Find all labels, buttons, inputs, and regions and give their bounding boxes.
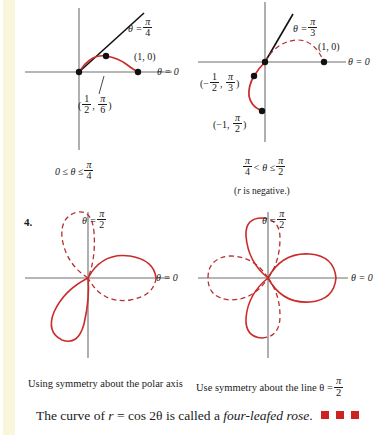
end-marker-square [351,411,359,419]
caption-bottom-right-text: Use symmetry about the line θ = [196,382,333,393]
curve-arc-pi-over-4-to-pi-over-2 [249,62,265,110]
panel-bottom-right: θ =π2 θ = 0 Use symmetry about the line … [196,206,374,391]
label-theta-zero: θ = 0 [156,273,178,283]
point-one-zero [135,69,141,75]
label-point-neg-half-pi-over-3: (−12, π3) [200,72,239,93]
fraction-pi-over-4: π4 [143,17,152,38]
fraction-numerator: 1 [82,94,91,104]
page-margin-strip [3,0,15,435]
fraction-denominator: 2 [82,104,91,115]
petal-right-lower-dashed [88,278,156,301]
caption-r-is-negative: (r is negative.) [234,186,290,196]
fraction-denominator: 6 [98,104,107,115]
caption-bottom-right: Use symmetry about the line θ =π2 [196,376,344,398]
fraction-denominator: 2 [97,219,106,230]
conclusion-emphasis: four-leafed rose [223,408,309,423]
end-marker-square [321,411,329,419]
fraction-denominator: 4 [84,170,93,181]
ray-theta-pi-over-3 [265,14,293,62]
fraction-denominator: 3 [308,27,317,38]
caption-range-mid: < θ ≤ [253,162,275,173]
label-theta-text: θ = [82,215,96,226]
end-marker-square [336,411,344,419]
fraction-numerator: π [277,209,286,219]
conclusion-part1: The curve of [36,408,105,423]
fraction-denominator: 4 [243,166,252,177]
caption-range-text: 0 ≤ θ ≤ [55,166,83,177]
fraction-pi-over-2: π2 [334,376,343,398]
label-theta-pi-over-2: θ =π2 [262,209,287,230]
top-left-plot [20,0,187,175]
label-theta-zero-text: θ = 0 [157,66,179,77]
conclusion-period: . [309,408,312,423]
figure-page: θ =π4 (1, 0) θ = 0 (12, π6) 0 ≤ θ ≤π4 [0,0,374,435]
label-point-one-zero: (1, 0) [134,52,156,62]
fraction-numerator: π [226,72,235,82]
label-point-neg-one-pi-over-2: (−1, π2) [213,113,246,134]
fraction-pi-over-2: π2 [276,156,285,177]
label-ray-theta-pi-over-4: θ =π4 [128,17,153,38]
label-theta-zero-text: θ = 0 [156,272,178,283]
leader-line-half-pi-six [99,76,104,94]
fraction-denominator: 4 [143,27,152,38]
curve-arc-dashed-prior [265,40,324,62]
fraction-pi-over-3: π3 [226,72,235,93]
fraction-pi-over-3: π3 [308,17,317,38]
label-theta-zero: θ = 0 [157,67,179,77]
fraction-denominator: 3 [226,82,235,93]
fraction-pi-over-4: π4 [84,160,93,181]
label-theta-pi-over-2: θ =π2 [82,209,107,230]
panel-top-left: θ =π4 (1, 0) θ = 0 (12, π6) 0 ≤ θ ≤π4 [20,0,187,205]
point-origin [76,69,82,75]
point-neg-half-pi-over-3 [251,73,257,79]
petal-lower-left-solid [51,278,88,341]
fraction-numerator: π [276,156,285,166]
label-theta-text: θ = [262,215,276,226]
label-point-one-zero: (1, 0) [318,42,340,52]
label-point-half-pi-over-6: (12, π6) [78,94,112,115]
caption-bottom-left: Using symmetry about the polar axis [28,378,183,390]
label-theta-zero: θ = 0 [351,273,373,283]
label-ray-theta-text: θ = [293,23,307,34]
fraction-numerator: π [84,160,93,170]
fraction-pi-over-2: π2 [233,113,242,134]
caption-negative-text: is negative.) [243,186,289,196]
fraction-pi-over-2: π2 [277,209,286,230]
petal-bottom-right-half-dashed [262,278,280,338]
caption-top-left-range: 0 ≤ θ ≤π4 [55,160,94,181]
petal-bottom-left-half-solid [246,278,268,338]
fraction-denominator: 2 [334,387,343,399]
petal-right-upper-solid [88,255,156,278]
fraction-numerator: 1 [210,72,219,82]
fraction-pi-over-4: π4 [243,156,252,177]
fraction-denominator: 2 [233,123,242,134]
fraction-denominator: 2 [210,82,219,93]
end-of-example-markers [321,411,359,419]
caption-variable-r: r [237,186,241,196]
fraction-numerator: π [334,376,343,387]
label-theta-zero-text: θ = 0 [351,272,373,283]
fraction-pi-over-2: π2 [97,209,106,230]
fraction-numerator: π [97,209,106,219]
label-theta-zero: θ = 0 [348,57,370,67]
conclusion-variable-r: r [108,408,113,423]
fraction-denominator: 2 [276,166,285,177]
conclusion-line: The curve of r = cos 2θ is called a four… [36,408,313,424]
label-theta-zero-text: θ = 0 [348,56,370,67]
fraction-denominator: 2 [277,219,286,230]
conclusion-rhs: cos 2θ [128,408,163,423]
panel-top-right: θ =π3 (1, 0) θ = 0 (−12, π3) (−1, π2) π4… [196,0,374,205]
fraction-pi-over-6: π6 [98,94,107,115]
fraction-numerator: π [308,17,317,27]
fraction-one-half: 12 [210,72,219,93]
fraction-numerator: π [143,17,152,27]
fraction-numerator: π [98,94,107,104]
point-origin [262,59,268,65]
point-one-zero [321,59,327,65]
fraction-numerator: π [233,113,242,123]
point-half-pi-over-6 [103,53,109,59]
label-ray-theta-text: θ = [128,23,142,34]
caption-top-right-range: π4< θ ≤π2 [242,156,286,177]
label-ray-theta-pi-over-3: θ =π3 [293,17,318,38]
conclusion-equals: = [117,408,125,423]
